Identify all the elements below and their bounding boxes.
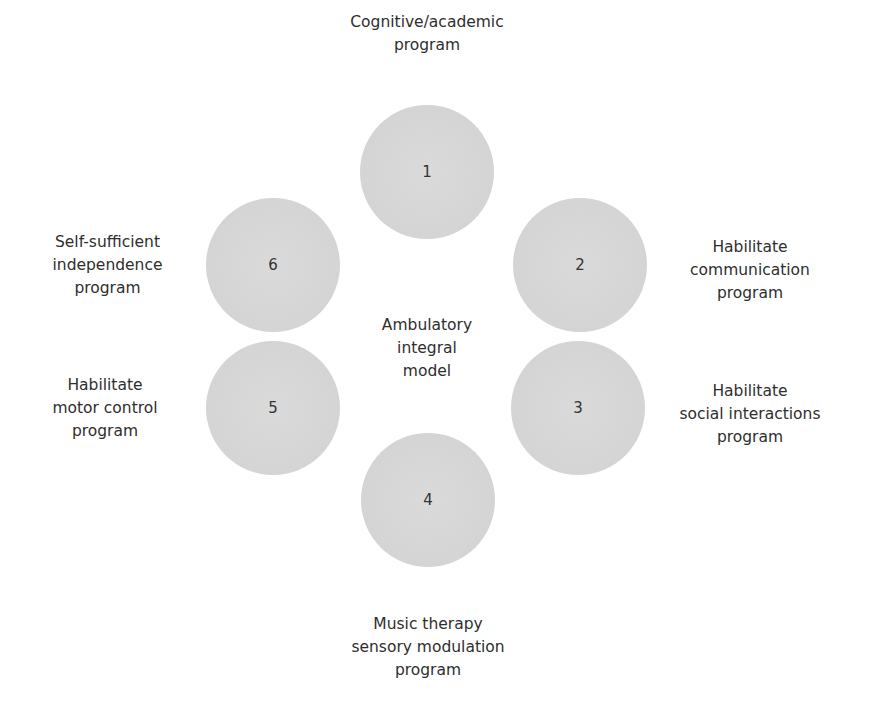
node-1-circle: 1 bbox=[360, 105, 494, 239]
node-2-circle: 2 bbox=[513, 198, 647, 332]
node-3-label-line: Habilitate bbox=[670, 380, 830, 403]
node-3-circle: 3 bbox=[511, 341, 645, 475]
node-5-number: 5 bbox=[268, 399, 278, 417]
node-6-label-line: independence bbox=[40, 254, 175, 277]
node-3-label-line: social interactions bbox=[670, 403, 830, 426]
node-4-label-line: sensory modulation bbox=[343, 636, 513, 659]
node-6-label: Self-sufficient independence program bbox=[40, 231, 175, 300]
center-label-line: Ambulatory bbox=[365, 314, 489, 337]
node-2-label: Habilitate communication program bbox=[680, 236, 820, 305]
node-3-label-line: program bbox=[670, 426, 830, 449]
center-label-line: model bbox=[365, 360, 489, 383]
node-4-circle: 4 bbox=[361, 433, 495, 567]
node-5-label: Habilitate motor control program bbox=[40, 374, 170, 443]
center-label-line: integral bbox=[365, 337, 489, 360]
node-5-label-line: program bbox=[40, 420, 170, 443]
node-4-label-line: program bbox=[343, 659, 513, 682]
center-label: Ambulatory integral model bbox=[365, 314, 489, 383]
node-2-label-line: program bbox=[680, 282, 820, 305]
node-6-number: 6 bbox=[268, 256, 278, 274]
node-5-label-line: Habilitate bbox=[40, 374, 170, 397]
node-6-circle: 6 bbox=[206, 198, 340, 332]
node-6-label-line: program bbox=[40, 277, 175, 300]
node-2-label-line: communication bbox=[680, 259, 820, 282]
node-5-label-line: motor control bbox=[40, 397, 170, 420]
node-5-circle: 5 bbox=[206, 341, 340, 475]
node-6-label-line: Self-sufficient bbox=[40, 231, 175, 254]
node-1-label-line: program bbox=[347, 34, 507, 57]
node-3-number: 3 bbox=[573, 399, 583, 417]
node-4-number: 4 bbox=[423, 491, 433, 509]
node-1-label: Cognitive/academic program bbox=[347, 11, 507, 57]
node-2-label-line: Habilitate bbox=[680, 236, 820, 259]
node-4-label: Music therapy sensory modulation program bbox=[343, 613, 513, 682]
node-2-number: 2 bbox=[575, 256, 585, 274]
node-4-label-line: Music therapy bbox=[343, 613, 513, 636]
node-1-number: 1 bbox=[422, 163, 432, 181]
node-1-label-line: Cognitive/academic bbox=[347, 11, 507, 34]
node-3-label: Habilitate social interactions program bbox=[670, 380, 830, 449]
